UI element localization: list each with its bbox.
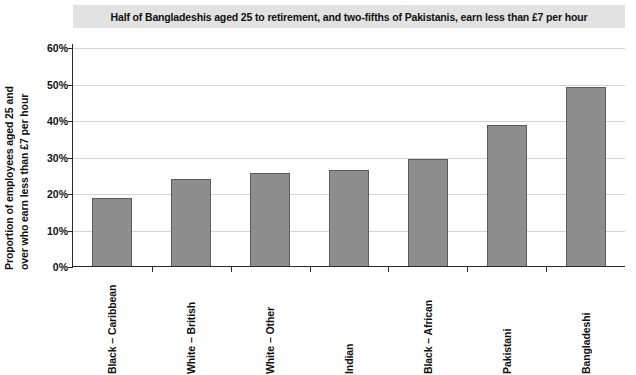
x-axis-tick-label: Bangladeshi (580, 276, 592, 374)
plot-area (73, 48, 625, 267)
bar[interactable] (487, 125, 527, 267)
bar[interactable] (92, 198, 132, 267)
x-axis-tick-mark (546, 267, 547, 272)
bar[interactable] (250, 173, 290, 267)
y-axis-title: Proportion of employees aged 25 and over… (2, 30, 36, 270)
y-axis-title-line-2: over who earn less than £7 per hour (18, 30, 30, 270)
x-axis-tick-label: White – British (185, 276, 197, 374)
y-axis-tick-label: 20% (38, 188, 68, 200)
x-axis-tick-mark (388, 267, 389, 272)
y-axis-tick-mark (68, 231, 73, 232)
y-axis-line (72, 44, 73, 267)
y-axis-tick-mark (68, 158, 73, 159)
y-axis-tick-mark (68, 194, 73, 195)
x-axis-tick-label: Black – African (422, 276, 434, 374)
y-axis-tick-label: 0% (38, 261, 68, 273)
y-axis-tick-labels: 0%10%20%30%40%50%60% (36, 48, 68, 267)
x-axis-tick-mark (152, 267, 153, 272)
bar-chart: Half of Bangladeshis aged 25 to retireme… (0, 0, 636, 375)
y-axis-title-line-1: Proportion of employees aged 25 and (3, 30, 15, 270)
y-axis-tick-mark (68, 48, 73, 49)
x-axis-tick-mark (467, 267, 468, 272)
x-axis-line (73, 266, 625, 267)
gridline (73, 85, 625, 86)
x-axis-tick-mark (231, 267, 232, 272)
y-axis-tick-label: 60% (38, 42, 68, 54)
y-axis-tick-label: 40% (38, 115, 68, 127)
y-axis-tick-mark (68, 85, 73, 86)
chart-title: Half of Bangladeshis aged 25 to retireme… (111, 11, 588, 23)
bar[interactable] (408, 159, 448, 267)
y-axis-tick-mark (68, 267, 73, 268)
bar[interactable] (171, 179, 211, 267)
gridline (73, 48, 625, 49)
gridline (73, 121, 625, 122)
gridline (73, 158, 625, 159)
y-axis-tick-label: 30% (38, 152, 68, 164)
x-axis-tick-label: Pakistani (501, 276, 513, 374)
x-axis-tick-label: Black – Caribbean (106, 276, 118, 374)
x-axis-tick-mark (310, 267, 311, 272)
x-axis-tick-label: Indian (343, 276, 355, 374)
y-axis-tick-mark (68, 121, 73, 122)
y-axis-tick-label: 10% (38, 225, 68, 237)
x-axis-tick-label: White – Other (264, 276, 276, 374)
bar[interactable] (329, 170, 369, 267)
chart-title-band: Half of Bangladeshis aged 25 to retireme… (73, 5, 625, 28)
bar[interactable] (566, 87, 606, 267)
y-axis-tick-label: 50% (38, 79, 68, 91)
